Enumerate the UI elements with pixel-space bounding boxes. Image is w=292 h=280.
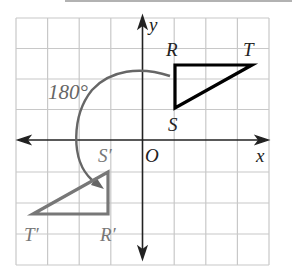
- vertex-label-t-prime: T′: [24, 224, 40, 245]
- axes: [18, 16, 268, 259]
- y-axis-label: y: [147, 14, 158, 35]
- rotation-arc: [76, 71, 170, 186]
- vertex-label-s: S: [168, 114, 178, 135]
- image-triangle: [33, 172, 108, 214]
- origin-label: O: [145, 145, 159, 166]
- vertex-label-r-prime: R′: [99, 224, 117, 245]
- rotation-diagram: 180° y x O R T S S′ T′ R′: [0, 0, 292, 280]
- angle-label: 180°: [48, 80, 89, 104]
- vertex-label-r: R: [165, 39, 178, 60]
- vertex-label-t: T: [243, 39, 255, 60]
- vertex-label-s-prime: S′: [98, 145, 113, 166]
- x-axis-label: x: [255, 145, 265, 166]
- preimage-triangle: [175, 65, 252, 108]
